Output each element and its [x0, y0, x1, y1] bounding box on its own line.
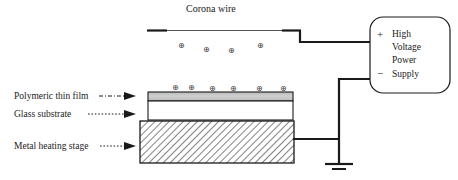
charge-lower-5-icon: ⊕: [256, 85, 263, 93]
sample-stack-group: [140, 92, 294, 163]
schematic-drawing: [0, 0, 458, 180]
polymeric-thin-film-layer: [148, 92, 293, 101]
charge-lower-3-icon: ⊕: [209, 85, 216, 93]
negative-terminal-wire: [339, 79, 370, 164]
charge-upper-2-icon: ⊕: [203, 46, 210, 54]
ground-circuit-group: [293, 79, 370, 169]
arrowhead-film: [124, 92, 136, 100]
power-supply-line-3: Power: [392, 54, 421, 67]
power-supply-line-4: Supply: [392, 68, 421, 81]
arrowhead-glass: [124, 110, 136, 118]
corona-wire-to-positive-terminal: [300, 30, 370, 42]
label-glass-substrate: Glass substrate: [14, 109, 71, 120]
charge-upper-3-icon: ⊕: [228, 47, 235, 55]
charge-lower-2-icon: ⊕: [188, 84, 195, 92]
power-supply-line-1: High: [392, 28, 421, 41]
charge-lower-1-icon: ⊕: [172, 84, 179, 92]
leader-lines-group: [88, 92, 136, 150]
glass-substrate-layer: [148, 101, 293, 120]
power-supply-line-2: Voltage: [392, 41, 421, 54]
diagram-title: Corona wire: [186, 3, 236, 15]
label-metal-heating-stage: Metal heating stage: [14, 141, 88, 152]
charge-lower-6-icon: ⊕: [280, 85, 287, 93]
positive-terminal-symbol: +: [377, 28, 383, 40]
power-supply-label: High Voltage Power Supply: [392, 28, 421, 81]
negative-terminal-symbol: −: [377, 67, 383, 79]
charge-lower-4-icon: ⊕: [230, 85, 237, 93]
charge-upper-1-icon: ⊕: [178, 42, 185, 50]
diagram-canvas: Corona wire Polymeric thin film Glass su…: [0, 0, 458, 180]
charge-upper-4-icon: ⊕: [257, 42, 264, 50]
label-polymeric-thin-film: Polymeric thin film: [14, 91, 88, 102]
arrowhead-metal: [124, 142, 136, 150]
metal-heating-stage-layer: [140, 121, 294, 163]
